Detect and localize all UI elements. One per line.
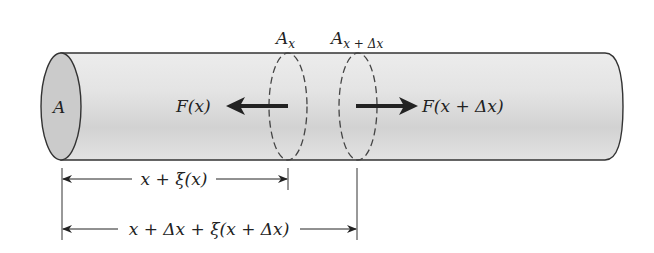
dimension-2-label: x + Δx + ξ(x + Δx) (129, 219, 290, 239)
dimension-1: x + ξ(x) (63, 169, 287, 189)
dimension-1-label: x + ξ(x) (141, 169, 208, 189)
end-face: A (41, 53, 81, 160)
rod-body (61, 53, 623, 160)
dimension-2: x + Δx + ξ(x + Δx) (63, 219, 356, 239)
force-right-label: F(x + Δx) (421, 96, 504, 116)
force-left-label: F(x) (175, 96, 211, 116)
rod-diagram: A Ax Ax + Δx F(x) F(x + Δx) x + ξ(x) x +… (0, 0, 654, 253)
section-x-dx-label: Ax + Δx (329, 28, 383, 51)
section-x-label: Ax (274, 28, 295, 51)
end-face-label: A (51, 97, 65, 117)
